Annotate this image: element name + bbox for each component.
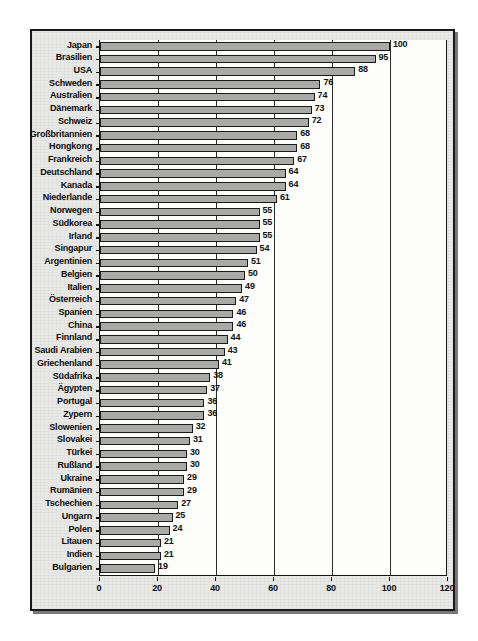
bar-row[interactable]: 46China	[100, 321, 446, 334]
bar-row[interactable]: 38Südafrika	[100, 372, 446, 385]
bar[interactable]	[100, 233, 260, 242]
y-axis-tick	[96, 199, 100, 201]
bar[interactable]	[100, 437, 190, 446]
bar[interactable]	[100, 195, 277, 204]
bar-row[interactable]: 29Ukraine	[100, 474, 446, 487]
bar-row[interactable]: 64Deutschland	[100, 168, 446, 181]
bar[interactable]	[100, 259, 248, 268]
bar-row[interactable]: 100Japan	[100, 41, 446, 54]
bar[interactable]	[100, 93, 315, 102]
bar-row[interactable]: 51Argentinien	[100, 257, 446, 270]
bar[interactable]	[100, 399, 204, 408]
bar[interactable]	[100, 488, 184, 497]
bar[interactable]	[100, 271, 245, 280]
bar[interactable]	[100, 564, 155, 573]
bar[interactable]	[100, 539, 161, 548]
bar-row[interactable]: 36Zypern	[100, 410, 446, 423]
bar[interactable]	[100, 501, 178, 510]
bar-row[interactable]: 37Ägypten	[100, 384, 446, 397]
bar[interactable]	[100, 386, 207, 395]
bar-value-label: 25	[176, 510, 186, 520]
bar[interactable]	[100, 284, 242, 293]
bar[interactable]	[100, 462, 187, 471]
bar-row[interactable]: 21Litauen	[100, 537, 446, 550]
bar[interactable]	[100, 208, 260, 217]
bar[interactable]	[100, 424, 193, 433]
bar[interactable]	[100, 106, 312, 115]
category-label: Tschechien	[0, 498, 92, 508]
bar[interactable]	[100, 335, 228, 344]
category-label: Schweiz	[0, 116, 92, 126]
bar-row[interactable]: 30Rußland	[100, 461, 446, 474]
bar[interactable]	[100, 297, 236, 306]
bar[interactable]	[100, 246, 257, 255]
x-axis-tick	[215, 577, 216, 581]
bar-row[interactable]: 44Finnland	[100, 333, 446, 346]
bar-row[interactable]: 43Saudi Arabien	[100, 346, 446, 359]
bar-row[interactable]: 49Italien	[100, 283, 446, 296]
bar-row[interactable]: 46Spanien	[100, 308, 446, 321]
bar[interactable]	[100, 310, 233, 319]
y-axis-tick	[96, 212, 100, 214]
bar[interactable]	[100, 169, 286, 178]
bar[interactable]	[100, 220, 260, 229]
y-axis-tick	[96, 466, 100, 468]
bar[interactable]	[100, 411, 204, 420]
bar-row[interactable]: 76Schweden	[100, 79, 446, 92]
bar-rows: 100Japan95Brasilien88USA76Schweden74Aust…	[100, 40, 446, 575]
bar[interactable]	[100, 450, 187, 459]
category-label: Niederlande	[0, 192, 92, 202]
bar-row[interactable]: 72Schweiz	[100, 117, 446, 130]
y-axis-tick	[96, 275, 100, 277]
bar-row[interactable]: 95Brasilien	[100, 53, 446, 66]
bar[interactable]	[100, 118, 309, 127]
bar-row[interactable]: 73Dänemark	[100, 104, 446, 117]
bar[interactable]	[100, 360, 219, 369]
bar[interactable]	[100, 42, 390, 51]
bar-row[interactable]: 67Frankreich	[100, 155, 446, 168]
bar[interactable]	[100, 552, 161, 561]
bar-row[interactable]: 41Griechenland	[100, 359, 446, 372]
bar-row[interactable]: 55Südkorea	[100, 219, 446, 232]
bar[interactable]	[100, 348, 225, 357]
bar-row[interactable]: 47Österreich	[100, 295, 446, 308]
bar[interactable]	[100, 322, 233, 331]
bar[interactable]	[100, 526, 170, 535]
bar-row[interactable]: 50Belgien	[100, 270, 446, 283]
bar[interactable]	[100, 80, 320, 89]
bar[interactable]	[100, 67, 355, 76]
bar-row[interactable]: 21Indien	[100, 550, 446, 563]
bar[interactable]	[100, 55, 376, 64]
bar-row[interactable]: 29Rumänien	[100, 486, 446, 499]
category-label: Südafrika	[0, 371, 92, 381]
bar-row[interactable]: 32Slowenien	[100, 423, 446, 436]
bar-value-label: 47	[239, 294, 249, 304]
bar[interactable]	[100, 144, 297, 153]
bar-row[interactable]: 61Niederlande	[100, 193, 446, 206]
bar[interactable]	[100, 373, 210, 382]
category-label: Litauen	[0, 536, 92, 546]
bar-row[interactable]: 36Portugal	[100, 397, 446, 410]
bar-row[interactable]: 55Irland	[100, 232, 446, 245]
bar-row[interactable]: 24Polen	[100, 525, 446, 538]
bar-row[interactable]: 74Australien	[100, 91, 446, 104]
bar[interactable]	[100, 131, 297, 140]
bar-row[interactable]: 68Hongkong	[100, 142, 446, 155]
bar-row[interactable]: 31Slovakei	[100, 435, 446, 448]
bar-row[interactable]: 68Großbritannien	[100, 130, 446, 143]
category-label: Südkorea	[0, 218, 92, 228]
bar-row[interactable]: 25Ungarn	[100, 512, 446, 525]
bar-row[interactable]: 30Türkei	[100, 448, 446, 461]
bar-row[interactable]: 27Tschechien	[100, 499, 446, 512]
bar-row[interactable]: 64Kanada	[100, 181, 446, 194]
bar-row[interactable]: 88USA	[100, 66, 446, 79]
bar-row[interactable]: 54Singapur	[100, 244, 446, 257]
category-label: Hongkong	[0, 141, 92, 151]
bar[interactable]	[100, 157, 294, 166]
bar[interactable]	[100, 513, 173, 522]
y-axis-tick	[96, 441, 100, 443]
bar[interactable]	[100, 475, 184, 484]
bar[interactable]	[100, 182, 286, 191]
bar-row[interactable]: 55Norwegen	[100, 206, 446, 219]
bar-row[interactable]: 19Bulgarien	[100, 563, 446, 576]
